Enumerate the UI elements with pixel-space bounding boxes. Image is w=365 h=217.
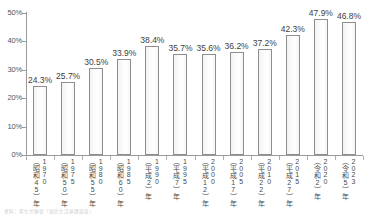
x-label-western-year: 2023 bbox=[349, 158, 357, 185]
bar-group: 25.7% bbox=[61, 82, 75, 155]
bar-value-label: 46.8% bbox=[337, 11, 361, 21]
bar-group: 30.5% bbox=[89, 68, 103, 155]
x-axis-label: （昭和45）年1970 bbox=[26, 158, 54, 207]
bar-chart: 50%40%30%20%10%0% 24.3%25.7%30.5%33.9%38… bbox=[0, 0, 365, 217]
x-label-era: （平成27）年 bbox=[285, 158, 293, 207]
x-label-western-year: 2000 bbox=[209, 158, 217, 185]
x-axis-label: （昭和55）年1980 bbox=[82, 158, 110, 207]
x-label-era: （令和2）年 bbox=[313, 158, 321, 200]
bar-value-label: 47.9% bbox=[309, 8, 333, 18]
bar-value-label: 33.9% bbox=[112, 48, 136, 58]
x-label-western-year: 1970 bbox=[40, 158, 48, 185]
x-axis-label: （平成22）年2010 bbox=[251, 158, 279, 207]
bar-group: 24.3% bbox=[33, 86, 47, 155]
x-label-era: （令和5）年 bbox=[341, 158, 349, 200]
bar[interactable] bbox=[286, 35, 300, 155]
x-axis-label: （平成17）年2005 bbox=[223, 158, 251, 207]
bar-group: 35.6% bbox=[202, 54, 216, 155]
x-axis-label: （平成27）年2015 bbox=[279, 158, 307, 207]
bar[interactable] bbox=[145, 46, 159, 155]
x-label-western-year: 2020 bbox=[321, 158, 329, 185]
x-label-western-year: 1990 bbox=[152, 158, 160, 185]
x-axis-label: （令和5）年2023 bbox=[335, 158, 363, 200]
x-label-western-year: 1995 bbox=[180, 158, 188, 185]
x-label-era: （昭和45）年 bbox=[32, 158, 40, 207]
bar[interactable] bbox=[202, 54, 216, 155]
bar-value-label: 38.4% bbox=[140, 35, 164, 45]
bar-group: 38.4% bbox=[145, 46, 159, 155]
x-label-era: （平成22）年 bbox=[257, 158, 265, 207]
x-label-era: （昭和50）年 bbox=[60, 158, 68, 207]
x-axis-label: （令和2）年2020 bbox=[307, 158, 335, 200]
x-label-western-year: 1980 bbox=[96, 158, 104, 185]
bar[interactable] bbox=[314, 19, 328, 155]
x-axis-label: （昭和60）年1985 bbox=[110, 158, 138, 207]
x-label-western-year: 2015 bbox=[293, 158, 301, 185]
bar-value-label: 24.3% bbox=[28, 75, 52, 85]
bar-group: 42.3% bbox=[286, 35, 300, 155]
bar-value-label: 37.2% bbox=[253, 38, 277, 48]
x-label-western-year: 1975 bbox=[68, 158, 76, 185]
bar-value-label: 35.6% bbox=[196, 43, 220, 53]
bar-group: 35.7% bbox=[173, 54, 187, 155]
bar[interactable] bbox=[33, 86, 47, 155]
bar-group: 46.8% bbox=[342, 22, 356, 155]
bar-value-label: 42.3% bbox=[281, 24, 305, 34]
x-axis-label: （平成2）年1990 bbox=[138, 158, 166, 200]
x-label-era: （平成2）年 bbox=[144, 158, 152, 200]
x-label-era: （平成7）年 bbox=[172, 158, 180, 200]
bar-value-label: 36.2% bbox=[225, 41, 249, 51]
bar-group: 37.2% bbox=[258, 49, 272, 155]
x-axis-label: （昭和50）年1975 bbox=[54, 158, 82, 207]
bar-group: 47.9% bbox=[314, 19, 328, 155]
x-label-era: （平成17）年 bbox=[229, 158, 237, 207]
x-axis-label: （平成12）年2000 bbox=[195, 158, 223, 207]
bar-value-label: 35.7% bbox=[168, 43, 192, 53]
x-label-era: （昭和60）年 bbox=[116, 158, 124, 207]
x-label-western-year: 2005 bbox=[237, 158, 245, 185]
x-label-era: （平成12）年 bbox=[201, 158, 209, 207]
x-label-western-year: 2010 bbox=[265, 158, 273, 185]
bar[interactable] bbox=[258, 49, 272, 155]
bar-value-label: 25.7% bbox=[56, 71, 80, 81]
bar-group: 33.9% bbox=[117, 59, 131, 155]
x-axis-labels: （昭和45）年1970（昭和50）年1975（昭和55）年1980（昭和60）年… bbox=[0, 158, 365, 214]
bar-value-label: 30.5% bbox=[84, 57, 108, 67]
x-label-era: （昭和55）年 bbox=[88, 158, 96, 207]
chart-footnote: 資料：厚生労働省「国民生活基礎調査」 bbox=[4, 209, 362, 214]
bar[interactable] bbox=[342, 22, 356, 155]
bar[interactable] bbox=[89, 68, 103, 155]
x-axis-label: （平成7）年1995 bbox=[166, 158, 194, 200]
bar[interactable] bbox=[230, 52, 244, 155]
x-label-western-year: 1985 bbox=[124, 158, 132, 185]
bar[interactable] bbox=[173, 54, 187, 155]
bar[interactable] bbox=[117, 59, 131, 155]
bar[interactable] bbox=[61, 82, 75, 155]
bar-group: 36.2% bbox=[230, 52, 244, 155]
